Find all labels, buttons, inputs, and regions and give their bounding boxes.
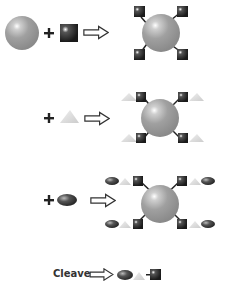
step2-product — [121, 92, 204, 143]
bead-icon — [142, 14, 180, 52]
linker-square-icon — [60, 24, 78, 42]
plus-icon — [44, 113, 54, 123]
linker-square-icon — [177, 49, 188, 60]
bead-icon — [141, 99, 179, 137]
step1-reactants — [5, 16, 108, 50]
linker-square-icon — [133, 176, 143, 186]
linker-square-icon — [178, 133, 188, 143]
step1-product — [134, 6, 188, 60]
step3-product — [105, 176, 215, 229]
oval-unit-icon — [201, 177, 215, 185]
linker-square-icon — [136, 92, 146, 102]
triangle-unit-icon — [189, 221, 201, 228]
arrow-icon — [85, 112, 109, 124]
triangle-unit-icon — [119, 221, 131, 228]
triangle-unit-icon — [121, 93, 137, 101]
linker-square-icon — [177, 176, 187, 186]
triangle-unit-icon — [189, 93, 204, 101]
triangle-unit-icon — [133, 272, 145, 280]
triangle-unit-icon — [189, 178, 201, 185]
oval-unit-icon — [117, 270, 133, 280]
triangle-unit-icon — [119, 178, 131, 185]
plus-icon — [44, 28, 54, 38]
step2-reactants — [44, 110, 109, 125]
linker-square-icon — [178, 92, 188, 102]
linker-square-icon — [150, 269, 161, 280]
triangle-unit-icon — [121, 134, 137, 142]
triangle-unit-icon — [189, 134, 204, 142]
linker-square-icon — [134, 6, 145, 17]
arrow-icon — [91, 194, 115, 206]
triangle-unit-icon — [60, 110, 79, 123]
oval-unit-icon — [57, 194, 77, 206]
oval-unit-icon — [105, 177, 119, 185]
arrow-icon — [90, 269, 113, 280]
linker-square-icon — [177, 6, 188, 17]
oval-unit-icon — [201, 220, 215, 228]
oval-unit-icon — [105, 220, 119, 228]
linker-square-icon — [136, 133, 146, 143]
linker-square-icon — [133, 219, 143, 229]
step3-reactants — [44, 194, 115, 207]
arrow-icon — [84, 26, 108, 38]
synthesis-diagram — [0, 0, 227, 287]
plus-icon — [44, 195, 54, 205]
bead-icon — [5, 16, 39, 50]
linker-square-icon — [177, 219, 187, 229]
linker-square-icon — [134, 49, 145, 60]
cleave-label: Cleave — [53, 268, 91, 279]
bead-icon — [141, 185, 179, 223]
cleave-row — [90, 269, 161, 280]
